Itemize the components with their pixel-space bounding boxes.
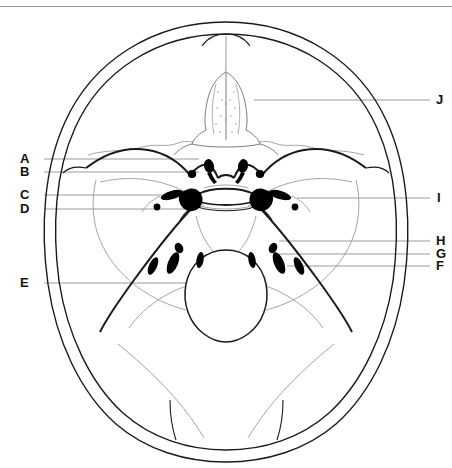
middle-fossa-floor-left [93, 180, 186, 310]
label-E[interactable]: E [20, 276, 29, 289]
sphenoid-ridge-tail-right [366, 167, 389, 173]
jugular-foramen-left [164, 250, 182, 275]
foramen-spinosum-right [292, 204, 299, 211]
figure-canvas: A B C D E J I H G F [0, 0, 452, 468]
superior-orbital-fissure-left [188, 170, 196, 178]
label-D[interactable]: D [20, 202, 29, 215]
clivus-outline [196, 216, 256, 252]
sella-floor-posterior [200, 202, 252, 205]
label-C[interactable]: C [20, 188, 29, 201]
transverse-sulcus-left [118, 344, 204, 438]
crista-galli-ethmoid-group [174, 72, 278, 155]
label-F[interactable]: F [436, 259, 444, 272]
superior-orbital-fissure-right [256, 170, 264, 178]
transverse-sulcus-right [248, 344, 334, 438]
orbital-plate-right [247, 140, 364, 155]
foramen-spinosum-left [154, 204, 161, 211]
optic-canal-left [203, 158, 216, 174]
orbital-plate-left [88, 140, 205, 155]
label-I[interactable]: I [437, 191, 441, 204]
lesser-wing-sphenoid-group [63, 149, 389, 178]
optic-canal-right [237, 158, 250, 174]
mastoid-foramen-left [145, 256, 160, 277]
tuberculum-sellae-arc [218, 175, 234, 178]
occipital-plate-seam [170, 400, 283, 440]
middle-fossa-floor-right [266, 180, 359, 310]
petrous-ridge-right [256, 204, 352, 332]
petrous-ridge-left [100, 204, 196, 332]
label-B[interactable]: B [20, 165, 29, 178]
lesser-wing-left [86, 149, 190, 175]
dorsum-sellae-shadow [200, 206, 252, 209]
sella-floor-anterior [198, 189, 254, 194]
skull-base-diagram [0, 0, 452, 468]
label-J[interactable]: J [436, 93, 443, 106]
sphenoid-body-faint [204, 185, 248, 188]
lesser-wing-right [262, 149, 366, 175]
